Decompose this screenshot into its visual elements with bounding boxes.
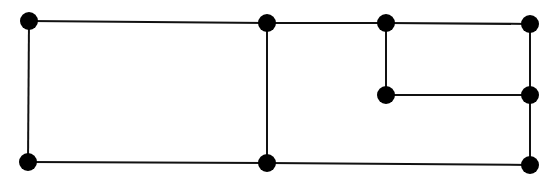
node-n7 xyxy=(19,153,37,171)
node-n1 xyxy=(20,12,38,30)
node-n8 xyxy=(258,154,276,172)
edge-n1-n2 xyxy=(29,21,267,23)
node-n2 xyxy=(258,14,276,32)
graph-diagram xyxy=(0,0,542,175)
edge-n8-n9 xyxy=(267,163,530,165)
edges-group xyxy=(28,21,530,165)
edge-n3-n4 xyxy=(386,23,530,24)
node-n5 xyxy=(377,86,395,104)
node-n3 xyxy=(377,14,395,32)
edge-n7-n8 xyxy=(28,162,267,163)
edge-n1-n7 xyxy=(28,21,29,162)
node-n4 xyxy=(521,15,539,33)
node-n9 xyxy=(521,156,539,174)
nodes-group xyxy=(19,12,539,174)
node-n6 xyxy=(521,86,539,104)
